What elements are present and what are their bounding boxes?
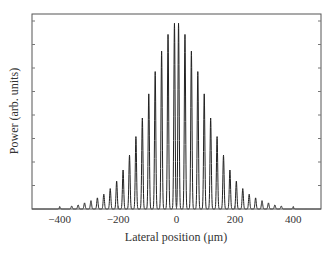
x-axis-title: Lateral position (μm) (125, 230, 227, 244)
x-tick-label: 400 (285, 213, 302, 225)
x-tick-label: −400 (48, 213, 71, 225)
y-axis-ticks (32, 21, 321, 186)
axes-frame (32, 14, 321, 209)
x-tick-label: −200 (107, 213, 130, 225)
interference-power-chart: −400−2000200400 Lateral position (μm) Po… (0, 0, 335, 258)
x-tick-label: 200 (227, 213, 244, 225)
x-tick-label: 0 (174, 213, 180, 225)
y-axis-title: Power (arb. units) (7, 68, 21, 154)
power-curve (32, 23, 321, 209)
plot-area (32, 23, 321, 209)
